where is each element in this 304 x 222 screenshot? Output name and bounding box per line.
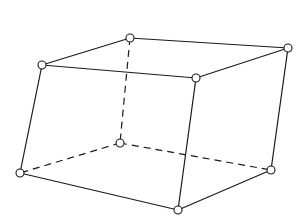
vertex-top-right xyxy=(284,44,292,52)
edge-bottom-back-to-bottom-left xyxy=(20,143,120,173)
vertex-bottom-right xyxy=(267,166,275,174)
vertex-layer xyxy=(16,34,292,214)
edge-top-left-to-bottom-left xyxy=(20,65,42,173)
edge-bottom-left-to-bottom-front xyxy=(20,173,178,210)
edge-bottom-front-to-bottom-right xyxy=(178,170,271,210)
vertex-top-back xyxy=(126,34,134,42)
edge-top-back-to-top-right xyxy=(130,38,288,48)
vertex-top-left xyxy=(38,61,46,69)
vertex-bottom-left xyxy=(16,169,24,177)
vertex-bottom-back xyxy=(116,139,124,147)
vertex-top-front xyxy=(192,74,200,82)
edge-top-left-to-top-front xyxy=(42,65,196,78)
hexahedron-diagram xyxy=(0,0,304,222)
edge-layer xyxy=(20,38,288,210)
edge-top-front-to-bottom-front xyxy=(178,78,196,210)
vertex-bottom-front xyxy=(174,206,182,214)
edge-top-front-to-top-right xyxy=(196,48,288,78)
edge-top-left-to-top-back xyxy=(42,38,130,65)
edge-top-right-to-bottom-right xyxy=(271,48,288,170)
edge-top-back-to-bottom-back xyxy=(120,38,130,143)
edge-bottom-back-to-bottom-right xyxy=(120,143,271,170)
